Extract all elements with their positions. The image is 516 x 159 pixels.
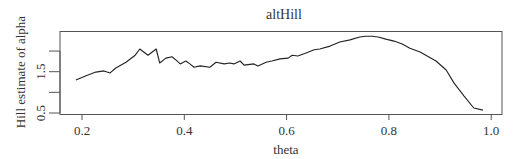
hill-estimate-line (76, 36, 483, 110)
y-tick-label: 0.5 (33, 105, 48, 121)
x-axis-label: theta (273, 142, 298, 157)
y-axis-label: Hill estimate of alpha (13, 16, 28, 129)
y-tick-label: 1.5 (33, 64, 48, 80)
x-tick-label: 0.6 (278, 123, 295, 138)
x-tick-label: 0.8 (381, 123, 397, 138)
x-tick-label: 1.0 (483, 123, 499, 138)
hill-plot: altHill 0.20.40.60.81.0 0.51.5 theta Hil… (0, 0, 516, 159)
x-tick-label: 0.2 (74, 123, 90, 138)
chart-title: altHill (266, 7, 302, 22)
x-axis: 0.20.40.60.81.0 (74, 115, 499, 139)
y-axis: 0.51.5 (33, 51, 60, 121)
x-tick-label: 0.4 (176, 123, 193, 138)
plot-frame (60, 32, 502, 115)
